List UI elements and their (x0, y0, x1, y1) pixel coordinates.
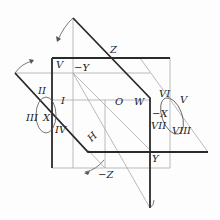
axis-label-x: X (43, 113, 50, 123)
axis-label-neg-z: −Z (98, 170, 113, 180)
rotation-diagram: Z V −Y II I III X IV O W H −Z VI V −X VI… (0, 0, 220, 220)
rotation-label-iii: III (26, 113, 38, 123)
rotation-label-iv: IV (55, 125, 66, 135)
axis-label-neg-x: −X (152, 109, 168, 119)
region-label-v-left: V (56, 60, 63, 70)
rotation-label-vi: VI (159, 89, 170, 99)
arrow-left-icon (15, 61, 33, 73)
arrowheads (29, 36, 90, 175)
axis-label-neg-y: −Y (74, 63, 89, 73)
label-w: W (134, 97, 144, 107)
axis-label-y: Y (152, 154, 159, 164)
arrow-top-left-icon (58, 18, 73, 40)
rotation-label-i: I (61, 96, 65, 106)
rotation-label-ii: II (38, 86, 46, 96)
axis-label-z: Z (110, 45, 117, 55)
rotation-label-v-right: V (180, 95, 187, 105)
origin-label-o: O (115, 97, 123, 107)
diagram-lines (0, 0, 220, 220)
rotation-label-vii: VII (151, 121, 166, 131)
rotation-label-viii: VIII (172, 126, 191, 136)
